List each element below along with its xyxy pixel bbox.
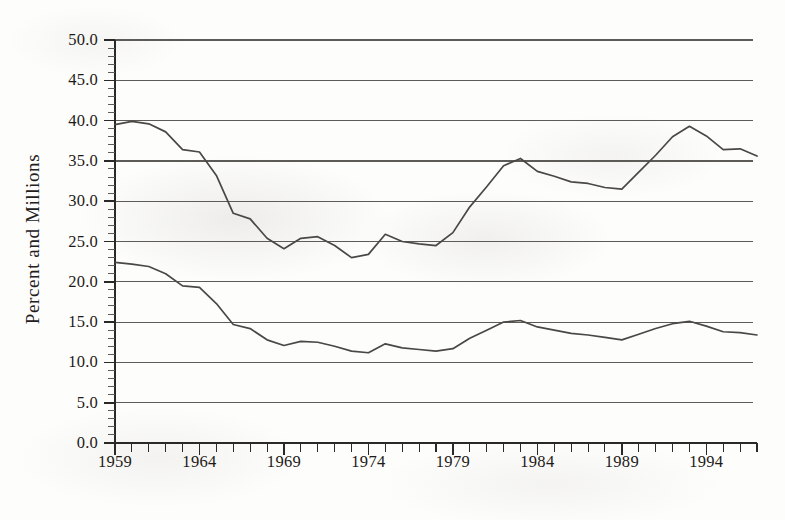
y-axis-tick-label: 5.0 xyxy=(40,393,98,413)
line-chart: Percent and Millions 0.05.010.015.020.02… xyxy=(0,0,785,520)
y-axis-tick-label: 10.0 xyxy=(40,352,98,372)
y-axis-tick-label: 15.0 xyxy=(40,312,98,332)
y-axis-tick-label: 20.0 xyxy=(40,272,98,292)
x-axis-tick-label: 1959 xyxy=(98,452,132,472)
x-axis-tick-label: 1979 xyxy=(436,452,470,472)
x-axis-tick-label: 1964 xyxy=(182,452,216,472)
x-axis-tick-label: 1974 xyxy=(351,452,385,472)
y-axis-tick-label: 30.0 xyxy=(40,191,98,211)
x-axis-tick-label: 1984 xyxy=(520,452,554,472)
y-axis-tick-label: 35.0 xyxy=(40,151,98,171)
figure-page: Percent and Millions 0.05.010.015.020.02… xyxy=(0,0,785,520)
y-axis-tick-label: 0.0 xyxy=(40,433,98,453)
y-axis-tick-label: 25.0 xyxy=(40,232,98,252)
x-axis-tick-label: 1969 xyxy=(267,452,301,472)
series-line-0 xyxy=(115,121,757,257)
series-line-1 xyxy=(115,262,757,352)
y-axis-tick-label: 45.0 xyxy=(40,70,98,90)
y-axis-tick-labels: 0.05.010.015.020.025.030.035.040.045.050… xyxy=(34,0,98,520)
x-axis-tick-label: 1994 xyxy=(689,452,723,472)
x-axis-tick-label: 1989 xyxy=(605,452,639,472)
plot-canvas xyxy=(0,0,785,520)
y-axis-tick-label: 50.0 xyxy=(40,30,98,50)
y-axis-tick-label: 40.0 xyxy=(40,111,98,131)
